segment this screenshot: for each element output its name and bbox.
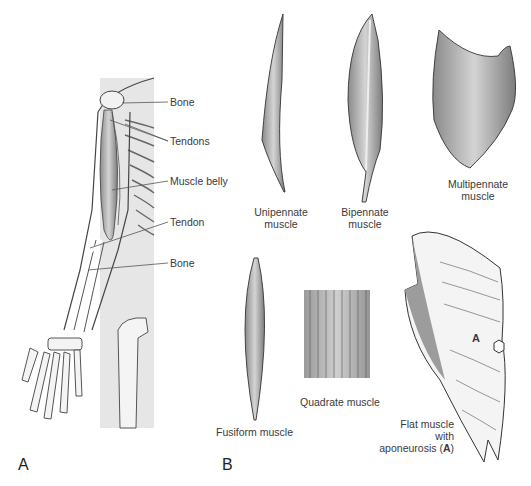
label-bone-bottom: Bone xyxy=(170,257,195,269)
label-bone-top: Bone xyxy=(170,96,195,108)
label-flat-muscle: Flat muscle with aponeurosis (A) xyxy=(372,418,454,454)
label-flat-line3: aponeurosis (A) xyxy=(372,442,454,454)
label-multipennate: Multipennate muscle xyxy=(438,178,518,202)
label-unipennate-line2: muscle xyxy=(246,218,316,230)
panel-letter-b: B xyxy=(222,456,233,474)
arm-anatomy-drawing xyxy=(22,78,168,428)
fusiform-muscle-drawing xyxy=(245,258,265,420)
label-tendons: Tendons xyxy=(170,135,210,147)
label-bipennate-line1: Bipennate xyxy=(330,206,400,218)
label-tendon: Tendon xyxy=(170,216,204,228)
label-flat-line2: with xyxy=(372,430,454,442)
quadrate-muscle-drawing xyxy=(304,290,370,378)
label-quadrate: Quadrate muscle xyxy=(300,396,380,408)
aponeurosis-marker-shape xyxy=(494,340,504,353)
label-multipennate-line2: muscle xyxy=(438,190,518,202)
label-bipennate-line2: muscle xyxy=(330,218,400,230)
bipennate-muscle-drawing xyxy=(348,14,383,202)
aponeurosis-marker-label: A xyxy=(472,332,480,344)
multipennate-muscle-drawing xyxy=(433,30,516,168)
label-flat-line1: Flat muscle xyxy=(372,418,454,430)
label-fusiform: Fusiform muscle xyxy=(216,426,293,438)
muscle-illustration xyxy=(0,0,531,486)
unipennate-muscle-drawing xyxy=(262,14,285,192)
label-unipennate-line1: Unipennate xyxy=(246,206,316,218)
panel-letter-a: A xyxy=(18,456,29,474)
label-multipennate-line1: Multipennate xyxy=(438,178,518,190)
label-unipennate: Unipennate muscle xyxy=(246,206,316,230)
label-bipennate: Bipennate muscle xyxy=(330,206,400,230)
label-muscle-belly: Muscle belly xyxy=(170,175,228,187)
